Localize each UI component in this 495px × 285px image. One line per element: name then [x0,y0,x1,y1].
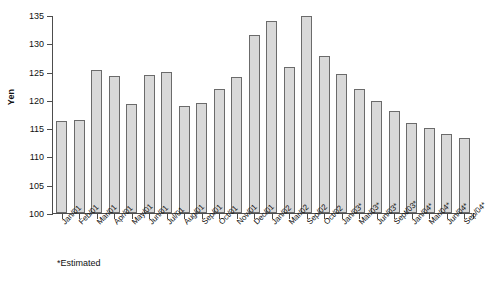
y-axis-tick-label: 130 [29,39,44,49]
bar [179,106,190,213]
y-axis-tick-label: 115 [30,124,44,134]
y-axis-tick-label: 105 [29,181,44,191]
yen-exchange-rate-bar-chart: Yen 100105110115120125130135 Jan/01Feb/0… [0,0,495,285]
bar [161,72,172,213]
y-axis-tick-label: 120 [29,96,44,106]
bar-series [53,16,472,213]
bar [91,70,102,213]
bar [424,128,435,213]
y-axis-tick: 100 [47,214,53,215]
bar [301,16,312,213]
y-axis-title: Yen [6,67,16,127]
bar [74,120,85,213]
bar [389,111,400,213]
y-axis-tick-label: 135 [29,11,44,21]
bar [284,67,295,213]
bar [319,56,330,213]
bar [214,89,225,213]
chart-footnote: *Estimated [57,258,101,268]
bar [196,103,207,213]
bar [231,77,242,213]
bar [336,74,347,213]
bar [371,101,382,213]
bar [56,121,67,213]
y-axis-tick-label: 110 [30,152,44,162]
y-axis-tick-label: 100 [29,209,44,219]
bar [144,75,155,213]
x-axis-labels: Jan/01Feb/01Mar/01Apr/01May/01Jun/01Jul/… [52,220,472,266]
bar [354,89,365,213]
bar [249,35,260,213]
plot-area: 100105110115120125130135 [52,16,472,214]
bar [266,21,277,213]
bar [126,104,137,213]
bar [109,76,120,213]
y-axis-tick-label: 125 [29,68,44,78]
